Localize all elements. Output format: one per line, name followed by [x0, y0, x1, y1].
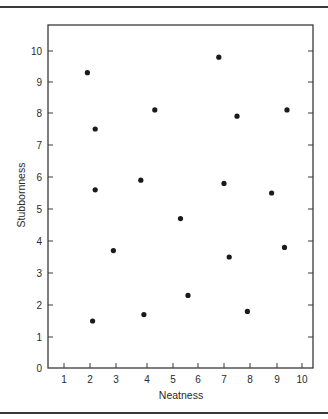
data-points	[85, 55, 290, 324]
data-point	[141, 312, 146, 317]
data-point	[221, 181, 226, 186]
data-point	[178, 216, 183, 221]
x-tick-label: 3	[113, 374, 119, 385]
x-tick-label: 5	[170, 374, 176, 385]
data-point	[111, 248, 116, 253]
data-point	[227, 254, 232, 259]
y-tick-label: 9	[36, 77, 42, 88]
y-tick-label: 10	[31, 46, 43, 57]
data-point	[85, 70, 90, 75]
data-point	[93, 187, 98, 192]
y-tick-label: 6	[36, 172, 42, 183]
x-tick-label: 9	[274, 374, 280, 385]
data-point	[93, 126, 98, 131]
data-point	[245, 309, 250, 314]
x-tick-label: 6	[195, 374, 201, 385]
x-tick-label: 2	[87, 374, 93, 385]
plot-frame	[48, 25, 313, 368]
y-axis-title: Stubbornness	[15, 163, 27, 228]
x-tick-label: 1	[61, 374, 67, 385]
y-axis-ticks: 012345678910	[31, 46, 313, 374]
data-point	[282, 245, 287, 250]
x-tick-label: 10	[296, 374, 308, 385]
data-point	[269, 190, 274, 195]
y-tick-label: 2	[36, 300, 42, 311]
x-tick-label: 7	[221, 374, 227, 385]
x-tick-label: 8	[247, 374, 253, 385]
x-tick-label: 4	[144, 374, 150, 385]
y-tick-label: 7	[36, 140, 42, 151]
x-axis-title: Neatness	[159, 389, 203, 401]
y-tick-label: 3	[36, 268, 42, 279]
y-tick-label: 4	[36, 236, 42, 247]
plot-border	[48, 25, 313, 368]
data-point	[216, 55, 221, 60]
data-point	[152, 107, 157, 112]
y-tick-label: 5	[36, 204, 42, 215]
y-tick-label: 1	[36, 332, 42, 343]
data-point	[90, 318, 95, 323]
data-point	[284, 107, 289, 112]
x-axis-ticks: 12345678910	[61, 363, 308, 385]
data-point	[234, 114, 239, 119]
y-tick-label: 8	[36, 108, 42, 119]
data-point	[138, 178, 143, 183]
scatter-plot: 12345678910 012345678910 Neatness Stubbo…	[0, 0, 328, 419]
y-tick-label: 0	[36, 363, 42, 374]
data-point	[185, 293, 190, 298]
